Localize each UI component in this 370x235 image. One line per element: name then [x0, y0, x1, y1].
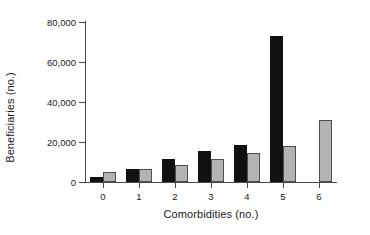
x-tick-label: 5 [280, 191, 285, 202]
x-tick-mark [283, 183, 284, 188]
bar-series-gray-6 [319, 120, 332, 182]
y-tick-label: 40,000 [47, 97, 76, 108]
bar-series-black-3 [198, 151, 211, 182]
bar-series-gray-0 [103, 172, 116, 182]
x-tick-label: 0 [100, 191, 105, 202]
bar-series-gray-1 [139, 169, 152, 182]
x-tick-mark [175, 183, 176, 188]
y-tick-label: 0 [71, 177, 76, 188]
y-tick-label: 80,000 [47, 17, 76, 28]
y-axis-title: Beneficiaries (no.) [0, 0, 20, 235]
x-tick-label: 1 [136, 191, 141, 202]
x-tick-mark [211, 183, 212, 188]
x-tick-label: 2 [172, 191, 177, 202]
x-tick-mark [319, 183, 320, 188]
bar-series-gray-2 [175, 165, 188, 182]
x-tick-label: 6 [316, 191, 321, 202]
bar-series-black-2 [162, 159, 175, 182]
bar-series-black-4 [234, 145, 247, 182]
bar-series-black-5 [270, 36, 283, 182]
bar-chart-figure: Beneficiaries (no.) 020,00040,00060,0008… [0, 0, 370, 235]
x-tick-label: 4 [244, 191, 249, 202]
bar-series-gray-4 [247, 153, 260, 182]
x-axis-ticks: 0123456 [85, 183, 337, 207]
y-tick-label: 60,000 [47, 57, 76, 68]
x-tick-mark [103, 183, 104, 188]
bar-series-gray-5 [283, 146, 296, 182]
x-tick-mark [139, 183, 140, 188]
bar-series-black-0 [90, 177, 103, 182]
y-tick-label: 20,000 [47, 137, 76, 148]
x-tick-mark [247, 183, 248, 188]
x-tick-label: 3 [208, 191, 213, 202]
bar-series-black-1 [126, 169, 139, 182]
bar-series-gray-3 [211, 159, 224, 182]
bars-group [85, 22, 337, 182]
x-axis-title: Comorbidities (no.) [85, 208, 337, 220]
